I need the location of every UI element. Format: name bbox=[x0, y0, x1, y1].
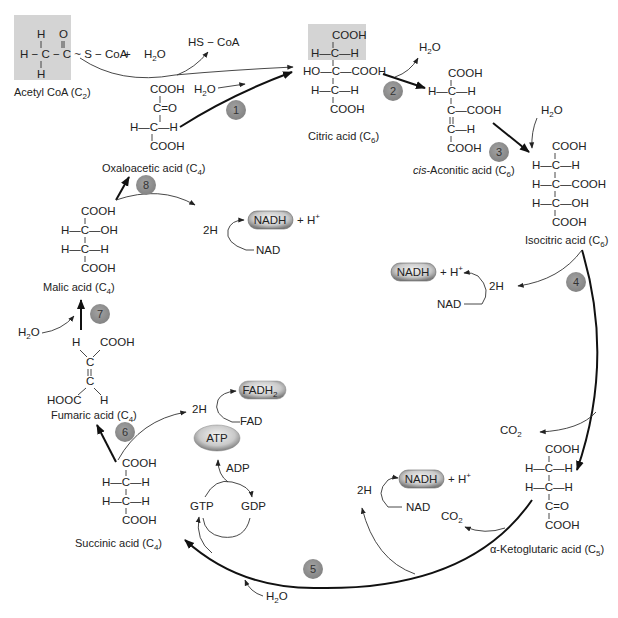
row: HOOC bbox=[47, 394, 82, 406]
fumaric-label: Fumaric acid (C4) bbox=[51, 409, 137, 424]
row: COOH bbox=[552, 140, 587, 152]
step-1-badge: 1 bbox=[226, 100, 246, 120]
hs-coa-release-arrow bbox=[177, 52, 208, 75]
row: COOH bbox=[332, 29, 367, 41]
water-step3: H2O bbox=[541, 104, 563, 119]
2h-step6: 2H bbox=[192, 403, 207, 415]
cis-aconitic-acid: COOH H—C—H C—COOH C—H COOH cis-Aconitic … bbox=[413, 67, 515, 179]
svg-text:7: 7 bbox=[97, 308, 103, 320]
step-4-badge: 4 bbox=[566, 272, 586, 292]
row: C=O bbox=[153, 102, 177, 114]
svg-text:8: 8 bbox=[143, 179, 149, 191]
row: COOH bbox=[545, 519, 580, 531]
isocitric-label: Isocitric acid (C6) bbox=[525, 234, 608, 249]
fumaric-acid: H COOH C C HOOC H Fumaric acid (C4) bbox=[47, 336, 137, 424]
row: H—C—H bbox=[102, 495, 150, 507]
row: COOH bbox=[150, 140, 185, 152]
atom-h: H bbox=[37, 68, 45, 80]
row: COOH bbox=[447, 142, 482, 154]
2h-step5: 2H bbox=[357, 484, 372, 496]
atp-pill: ATP bbox=[194, 425, 240, 451]
nad-to-nadh-arrow bbox=[464, 273, 486, 304]
step-2-badge: 2 bbox=[383, 81, 403, 101]
h-plus-step4: + H+ bbox=[440, 264, 463, 278]
step-3-badge: 3 bbox=[489, 142, 509, 162]
svg-text:NADH: NADH bbox=[405, 473, 438, 485]
row: COOH bbox=[81, 262, 116, 274]
gtp-arrow bbox=[198, 517, 212, 553]
row: COOH bbox=[150, 83, 185, 95]
row: C bbox=[86, 356, 94, 368]
acetyl-coa-label: Acetyl CoA (C2) bbox=[14, 86, 91, 101]
citric-acid: COOH H—C—H HO—C—COOH H—C—H COOH Citric a… bbox=[303, 24, 386, 145]
row: C=O bbox=[545, 500, 569, 512]
alpha-ketoglutaric-acid: COOH H—C—H H—C—H C=O COOH α-Ketoglutaric… bbox=[490, 443, 604, 558]
isocitric-acid: COOH H—C—H H—C—COOH H—C—OH COOH Isocitri… bbox=[525, 140, 608, 249]
svg-text:ATP: ATP bbox=[206, 432, 228, 444]
row: H—C—OH bbox=[532, 197, 589, 209]
succinic-label: Succinic acid (C4) bbox=[75, 537, 162, 552]
malic-acid: COOH H—C—OH H—C—H COOH Malic acid (C4) bbox=[43, 205, 118, 296]
row: C—COOH bbox=[447, 104, 501, 116]
row: H—C—H bbox=[525, 481, 573, 493]
step-5-badge: 5 bbox=[303, 559, 323, 579]
step6-arrow bbox=[97, 425, 116, 462]
cis-aconitic-label: cis-Aconitic acid (C6) bbox=[413, 164, 515, 179]
h-plus-step8: + H+ bbox=[297, 212, 320, 226]
water-arrow bbox=[218, 84, 245, 88]
gtp-to-gdp-arc bbox=[205, 481, 252, 497]
2h-release-arrow-8 bbox=[116, 194, 195, 205]
fad-label: FAD bbox=[240, 415, 262, 427]
svg-text:4: 4 bbox=[573, 276, 579, 288]
row: H—C—H bbox=[311, 84, 359, 96]
h-plus-step5: + H+ bbox=[448, 471, 471, 485]
oxaloacetic-label: Oxaloacetic acid (C4) bbox=[102, 162, 206, 177]
svg-text:2: 2 bbox=[390, 85, 396, 97]
row: H—C—COOH bbox=[532, 178, 606, 190]
row: H—C—H bbox=[532, 159, 580, 171]
row: H—C—H bbox=[525, 462, 573, 474]
row: COOH bbox=[122, 514, 157, 526]
svg-text:1: 1 bbox=[233, 104, 239, 116]
row: H—C—H bbox=[130, 121, 178, 133]
water-step5: H2O bbox=[266, 590, 288, 605]
nadh-pill-step5: NADH bbox=[399, 470, 444, 488]
fad-to-fadh2-arrow bbox=[217, 391, 236, 422]
row: HO—C—COOH bbox=[303, 65, 386, 77]
water-step1: H2O bbox=[194, 83, 216, 98]
oxaloacetic-acid: COOH C=O H—C—H COOH Oxaloacetic acid (C4… bbox=[102, 83, 206, 177]
step5-arrow bbox=[185, 500, 532, 588]
atom-o: O bbox=[59, 28, 68, 40]
svg-text:NADH: NADH bbox=[254, 214, 287, 226]
water-in-arrow-7 bbox=[42, 316, 74, 333]
row: H—C—H bbox=[428, 85, 476, 97]
nad-to-nadh-arrow-5 bbox=[381, 478, 398, 507]
row: COOH bbox=[448, 67, 483, 79]
plus-sign: + bbox=[124, 48, 131, 60]
svg-text:6: 6 bbox=[122, 426, 128, 438]
gtp-label: GTP bbox=[190, 500, 214, 512]
row: H—C—H bbox=[311, 47, 359, 59]
co2-step4: CO2 bbox=[500, 424, 522, 439]
citric-label: Citric acid (C6) bbox=[308, 130, 379, 145]
step-6-badge: 6 bbox=[115, 422, 135, 442]
acetyl-to-citric-arrow bbox=[80, 58, 293, 78]
svg-text:5: 5 bbox=[310, 563, 316, 575]
water-reactant: H2O bbox=[144, 48, 166, 63]
krebs-cycle-diagram: H O H − C − C ~ S − CoA H Acetyl CoA (C2… bbox=[0, 0, 618, 618]
row: COOH bbox=[100, 336, 135, 348]
gdp-to-gtp-arc bbox=[203, 518, 250, 537]
water-in-arrow-5 bbox=[245, 580, 263, 596]
nad-step8: NAD bbox=[256, 244, 280, 256]
alpha-ketoglutaric-label: α-Ketoglutaric acid (C5) bbox=[490, 543, 604, 558]
step-7-badge: 7 bbox=[90, 304, 110, 324]
fadh2-pill: FADH2 bbox=[239, 381, 286, 399]
nad-to-nadh-arrow-8 bbox=[228, 220, 246, 250]
co2-release-arrow-5 bbox=[465, 527, 505, 531]
row: H—C—H bbox=[102, 476, 150, 488]
malic-label: Malic acid (C4) bbox=[43, 281, 115, 296]
water-step7: H2O bbox=[18, 326, 40, 341]
row: COOH bbox=[545, 443, 580, 455]
water-out-arrow bbox=[395, 58, 418, 77]
row: H bbox=[72, 336, 80, 348]
